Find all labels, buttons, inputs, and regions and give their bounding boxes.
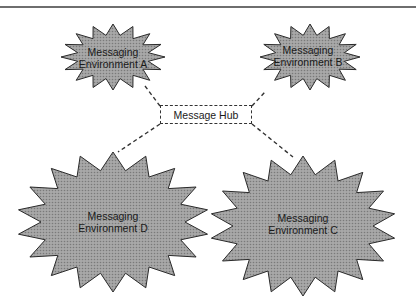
environment-d-line1: Messaging xyxy=(78,210,147,222)
environment-d: Messaging Environment D xyxy=(78,210,147,234)
environment-b-line1: Messaging xyxy=(274,44,343,56)
connector-hub-b xyxy=(252,92,265,106)
environment-d-line2: Environment D xyxy=(78,222,147,234)
environment-b: Messaging Environment B xyxy=(274,44,343,68)
message-hub-label: Message Hub xyxy=(174,109,239,121)
environment-a-line2: Environment A xyxy=(79,58,147,70)
environment-a-line1: Messaging xyxy=(79,46,147,58)
environment-c-line1: Messaging xyxy=(268,212,337,224)
connector-hub-a xyxy=(145,86,160,106)
connector-hub-d xyxy=(118,124,160,152)
environment-c-line2: Environment C xyxy=(268,224,337,236)
environment-b-line2: Environment B xyxy=(274,56,343,68)
message-hub: Message Hub xyxy=(160,105,252,124)
environment-a: Messaging Environment A xyxy=(79,46,147,70)
diagram-canvas xyxy=(0,0,416,303)
connector-hub-c xyxy=(252,124,293,157)
environment-c: Messaging Environment C xyxy=(268,212,337,236)
